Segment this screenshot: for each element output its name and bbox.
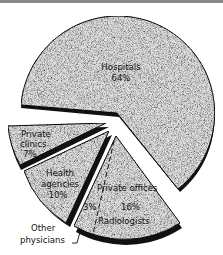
leader-line-other-physicians [72,232,80,243]
label-agencies-pct: 10% [49,189,68,200]
label-hospitals-name: Hospitals [101,61,141,72]
label-radiologists-name: Radiologists [98,215,150,226]
label-hospitals-pct: 64% [112,72,131,83]
pie-chart: Hospitals 64% Private clinics 7% Health … [0,0,223,255]
label-private-offices: Private offices [97,182,158,193]
label-other-physicians-pct: 3% [83,201,97,212]
label-agencies-line2: agencies [41,178,80,189]
label-agencies-line1: Health [46,167,74,178]
label-other-line1: Other [31,222,56,233]
label-clinics-pct: 7% [23,148,37,159]
label-other-line2: physicians [20,234,65,245]
label-radiologists-pct: 16% [121,201,140,212]
